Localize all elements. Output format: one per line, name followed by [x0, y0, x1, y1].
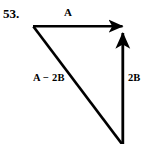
vector-a-minus-2b-label: A − 2B — [33, 73, 65, 84]
vector-a-minus-2b-line — [33, 27, 122, 145]
problem-number-label: 53. — [3, 7, 19, 20]
vector-diagram-canvas — [0, 0, 143, 144]
vector-diagram-figure: 53. A A − 2B 2B — [0, 0, 143, 144]
vector-a-label: A — [64, 7, 72, 18]
vector-2b-label: 2B — [128, 73, 140, 84]
